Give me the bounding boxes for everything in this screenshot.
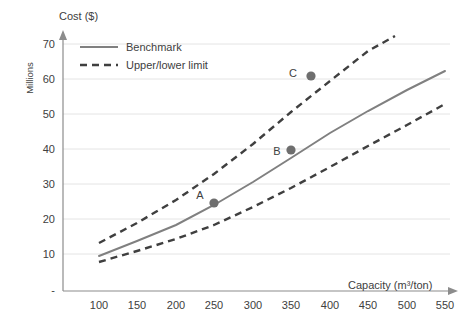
x-axis-arrow-icon [448, 287, 458, 295]
x-tick-250: 250 [205, 299, 223, 311]
y-tick-50: 50 [43, 108, 55, 120]
benchmark-path [99, 71, 445, 256]
data-point-b[interactable] [286, 145, 295, 154]
x-tick-350: 350 [282, 299, 300, 311]
y-tick-60: 60 [43, 73, 55, 85]
y-tick-0: - [51, 284, 55, 296]
y-axis-unit-label: Millions [24, 62, 35, 94]
chart-canvas: 70 60 50 40 30 20 10 - 100 150 200 250 3… [0, 0, 468, 329]
x-tick-150: 150 [128, 299, 146, 311]
x-tick-labels: 100 150 200 250 300 350 400 450 500 550 [90, 299, 454, 311]
series-benchmark [99, 71, 445, 256]
y-tick-20: 20 [43, 213, 55, 225]
x-tick-400: 400 [321, 299, 339, 311]
y-tick-labels: 70 60 50 40 30 20 10 - [43, 38, 56, 296]
legend: Benchmark Upper/lower limit [80, 41, 208, 71]
x-tick-550: 550 [436, 299, 454, 311]
data-point-b-label: B [273, 145, 280, 157]
x-tick-300: 300 [244, 299, 262, 311]
data-points: A B C [196, 67, 315, 208]
y-axis-arrow-icon [59, 30, 67, 40]
legend-label-benchmark: Benchmark [126, 41, 182, 53]
legend-label-limit: Upper/lower limit [126, 59, 208, 71]
y-axis-title: Cost ($) [59, 10, 98, 22]
x-tick-450: 450 [359, 299, 377, 311]
x-tick-200: 200 [167, 299, 185, 311]
x-tick-100: 100 [90, 299, 108, 311]
data-point-c-label: C [289, 67, 297, 79]
x-tick-500: 500 [398, 299, 416, 311]
y-tick-70: 70 [43, 38, 55, 50]
data-point-c[interactable] [306, 71, 315, 80]
y-tick-30: 30 [43, 178, 55, 190]
y-tick-40: 40 [43, 143, 55, 155]
x-axis-title: Capacity (m³/ton) [348, 279, 432, 291]
y-tick-10: 10 [43, 248, 55, 260]
chart-container: 70 60 50 40 30 20 10 - 100 150 200 250 3… [0, 0, 468, 329]
y-axis [59, 30, 67, 291]
gridlines [63, 44, 450, 254]
data-point-a-label: A [196, 189, 204, 201]
data-point-a[interactable] [209, 198, 218, 207]
